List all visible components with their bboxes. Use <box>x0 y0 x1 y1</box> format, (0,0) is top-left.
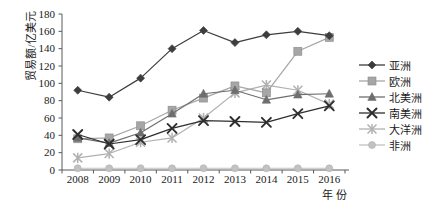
data-point-diamond <box>231 39 239 47</box>
data-point-circle <box>137 165 144 172</box>
legend-label: 大洋洲 <box>385 121 422 137</box>
data-point-circle <box>326 165 333 172</box>
data-point-circle <box>263 165 270 172</box>
series-line <box>78 37 330 138</box>
data-point-diamond <box>294 27 302 35</box>
legend-item-南美洲[interactable]: 南美洲 <box>359 105 433 121</box>
data-point-circle <box>369 142 376 149</box>
data-point-cross <box>293 109 302 118</box>
data-point-square <box>294 47 302 55</box>
series-line <box>78 30 330 97</box>
data-point-circle <box>169 165 176 172</box>
series-南美洲 <box>73 101 334 148</box>
legend-marker-circle-icon <box>359 138 385 152</box>
data-point-diamond <box>200 26 208 34</box>
legend-marker-diamond-icon <box>359 58 385 72</box>
legend-item-大洋洲[interactable]: 大洋洲 <box>359 121 433 137</box>
data-point-square <box>368 77 376 85</box>
data-point-circle <box>74 165 81 172</box>
legend-label: 南美洲 <box>385 105 422 121</box>
trade-volume-line-chart: 贸易额/亿美元 年 份 020406080100120140160180 200… <box>0 0 434 223</box>
data-point-diamond <box>368 61 376 69</box>
series-非洲 <box>74 165 333 172</box>
x-axis-title: 年 份 <box>322 186 347 202</box>
legend-item-欧洲[interactable]: 欧洲 <box>359 73 433 89</box>
legend-label: 非洲 <box>385 137 411 153</box>
legend-item-北美洲[interactable]: 北美洲 <box>359 89 433 105</box>
data-point-circle <box>106 165 113 172</box>
series-line <box>78 106 330 144</box>
data-point-diamond <box>262 31 270 39</box>
data-point-diamond <box>74 86 82 94</box>
legend-label: 亚洲 <box>385 57 411 73</box>
data-point-diamond <box>105 93 113 101</box>
y-axis-title: 贸易额/亿美元 <box>22 0 38 106</box>
series-欧洲 <box>74 33 334 142</box>
legend-item-非洲[interactable]: 非洲 <box>359 137 433 153</box>
legend-marker-square-icon <box>359 74 385 88</box>
legend-item-亚洲[interactable]: 亚洲 <box>359 57 433 73</box>
chart-legend: 亚洲欧洲北美洲南美洲大洋洲非洲 <box>359 57 433 153</box>
legend-marker-cross-icon <box>359 106 385 120</box>
data-point-circle <box>294 165 301 172</box>
data-point-circle <box>200 165 207 172</box>
data-point-cross <box>168 124 177 133</box>
legend-label: 欧洲 <box>385 73 411 89</box>
data-point-circle <box>231 165 238 172</box>
legend-marker-triangle-icon <box>359 90 385 104</box>
legend-label: 北美洲 <box>385 89 422 105</box>
legend-marker-star-icon <box>359 122 385 136</box>
